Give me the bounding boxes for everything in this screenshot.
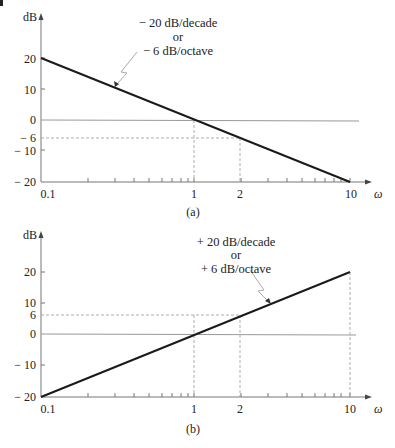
y-axis-label: dB <box>23 228 37 242</box>
y-tick-0: 0 <box>30 113 36 127</box>
annotation-line2: or <box>173 30 184 44</box>
annotation-line1: − 20 dB/decade <box>139 16 218 30</box>
y-tick-minus10: − 10 <box>14 144 36 158</box>
x-tick-0.1: 0.1 <box>41 187 56 201</box>
y-tick-0: 0 <box>30 327 36 341</box>
x-tick-0.1: 0.1 <box>41 402 56 416</box>
y-tick-minus10: − 10 <box>14 358 36 372</box>
x-tick-10: 10 <box>344 402 356 416</box>
x-tick-2: 2 <box>237 187 243 201</box>
bode-asymptote-figure: dB 20 10 0 − 6 − 10 − 20 0.1 1 2 10 ω − … <box>0 0 395 448</box>
panel-b: dB 20 10 6 0 − 10 − 20 0.1 1 2 10 ω + 20… <box>14 228 382 436</box>
y-tick-10: 10 <box>24 83 36 97</box>
y-tick-minus6: − 6 <box>20 131 36 145</box>
panel-a: dB 20 10 0 − 6 − 10 − 20 0.1 1 2 10 ω − … <box>14 10 382 219</box>
y-tick-20: 20 <box>24 265 36 279</box>
y-ticks <box>41 272 45 365</box>
x-axis-label: ω <box>374 187 382 201</box>
y-tick-20: 20 <box>24 52 36 66</box>
annotation-leader <box>117 52 137 84</box>
x-axis-label: ω <box>374 402 382 416</box>
corner-mark <box>0 0 3 6</box>
x-ticks <box>88 393 350 397</box>
x-ticks <box>88 178 350 182</box>
y-axis-label: dB <box>23 10 37 24</box>
x-tick-1: 1 <box>191 187 197 201</box>
caption-a: (a) <box>186 205 199 219</box>
x-tick-10: 10 <box>345 187 357 201</box>
x-axis-arrow-icon <box>365 180 372 185</box>
annotation-line2: or <box>231 248 242 262</box>
x-tick-1: 1 <box>191 402 197 416</box>
y-tick-6: 6 <box>30 308 36 322</box>
y-ticks <box>41 58 45 150</box>
y-tick-minus20: − 20 <box>14 175 36 189</box>
y-tick-minus20: − 20 <box>14 390 36 404</box>
x-tick-2: 2 <box>237 402 243 416</box>
annotation-line3: + 6 dB/octave <box>201 262 272 276</box>
caption-b: (b) <box>186 422 200 436</box>
x-axis-arrow-icon <box>365 395 372 400</box>
annotation-line1: + 20 dB/decade <box>197 235 276 249</box>
y-axis-arrow-icon <box>39 13 44 20</box>
y-axis-arrow-icon <box>39 231 44 238</box>
annotation-line3: − 6 dB/octave <box>143 44 214 58</box>
